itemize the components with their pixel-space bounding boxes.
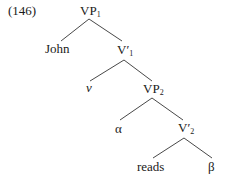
node-label: V′ <box>178 120 190 135</box>
node-label: VP <box>143 81 160 96</box>
node-alpha: α <box>115 122 122 135</box>
node-vp1: VP1 <box>80 4 101 21</box>
node-vp2: VP2 <box>143 82 164 99</box>
node-subscript: 2 <box>160 88 164 97</box>
node-label: VP <box>80 3 97 18</box>
node-john: John <box>45 42 70 55</box>
node-subscript: 1 <box>129 49 133 58</box>
edge-vbar2-reads <box>153 138 184 158</box>
edge-vp1-vbar1 <box>89 19 122 41</box>
edge-vp2-vbar2 <box>152 98 183 120</box>
example-number: (146) <box>8 4 36 17</box>
edge-vbar1-vp2 <box>124 60 152 81</box>
node-subscript: 2 <box>190 127 194 136</box>
edge-vp1-john <box>61 19 89 41</box>
node-reads: reads <box>137 160 164 173</box>
edge-vp2-alpha <box>120 98 152 120</box>
node-label: V′ <box>117 42 129 57</box>
node-v: v <box>86 81 92 94</box>
node-vbar2: V′2 <box>178 121 194 138</box>
tree-edges <box>0 0 226 181</box>
edge-vbar1-v <box>90 60 124 81</box>
edge-vbar2-beta <box>184 138 212 158</box>
node-subscript: 1 <box>97 10 101 19</box>
node-vbar1: V′1 <box>117 43 133 60</box>
node-beta: β <box>208 160 215 173</box>
